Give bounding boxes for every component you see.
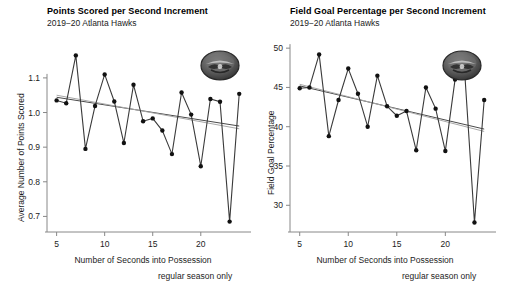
data-point — [131, 83, 135, 87]
y-tick-label: 50 — [274, 43, 284, 53]
data-point — [151, 116, 155, 120]
data-point — [83, 147, 87, 151]
data-point — [424, 85, 428, 89]
data-point — [365, 125, 369, 129]
data-point — [346, 66, 350, 70]
x-tick-label: 10 — [100, 239, 110, 249]
points-x-axis-label: Number of Seconds into Possession — [38, 255, 248, 265]
x-tick-label: 5 — [54, 239, 59, 249]
data-point — [112, 99, 116, 103]
x-tick-label: 10 — [344, 239, 354, 249]
data-point — [414, 148, 418, 152]
x-tick-label: 15 — [148, 239, 158, 249]
fg-x-axis-label: Number of Seconds into Possession — [280, 255, 490, 265]
data-point — [472, 220, 476, 224]
data-point — [141, 119, 145, 123]
data-point — [227, 219, 231, 223]
data-point — [122, 141, 126, 145]
x-tick-label: 5 — [297, 239, 302, 249]
data-point — [298, 86, 302, 90]
data-point — [482, 98, 486, 102]
atlanta-hawks-logo — [200, 50, 240, 85]
data-point — [395, 114, 399, 118]
data-point — [443, 149, 447, 153]
data-point — [317, 52, 321, 56]
x-tick-label: 20 — [196, 239, 206, 249]
y-tick-label: 0.7 — [28, 211, 40, 221]
data-point — [170, 152, 174, 156]
points-scored-panel: Points Scored per Second Increment 2019−… — [0, 0, 252, 296]
fg-chart-plot: 30354045505101520 — [252, 0, 505, 296]
atlanta-hawks-logo — [442, 50, 482, 85]
x-tick-label: 20 — [441, 239, 451, 249]
y-tick-label: 0.8 — [28, 177, 40, 187]
y-tick-label: 1.1 — [28, 73, 40, 83]
y-tick-label: 30 — [274, 200, 284, 210]
data-point — [64, 101, 68, 105]
y-tick-label: 1.0 — [28, 108, 40, 118]
points-chart-plot: 0.70.80.91.01.15101520 — [0, 0, 252, 296]
data-point — [74, 53, 78, 57]
data-point — [160, 128, 164, 132]
fg-chart-caption: regular season only — [402, 271, 476, 281]
data-point — [433, 106, 437, 110]
data-point — [208, 97, 212, 101]
data-point — [237, 92, 241, 96]
data-point — [336, 98, 340, 102]
x-tick-label: 15 — [392, 239, 402, 249]
data-point — [404, 109, 408, 113]
field-goal-panel: Field Goal Percentage per Second Increme… — [252, 0, 505, 296]
data-point — [356, 92, 360, 96]
fg-y-axis-label: Field Goal Percentage — [266, 110, 276, 195]
data-point — [179, 90, 183, 94]
points-chart-caption: regular season only — [158, 271, 232, 281]
data-point — [327, 134, 331, 138]
data-point — [375, 73, 379, 77]
y-tick-label: 0.9 — [28, 142, 40, 152]
charts-board: Points Scored per Second Increment 2019−… — [0, 0, 505, 296]
y-tick-label: 45 — [274, 82, 284, 92]
data-point — [93, 104, 97, 108]
data-point — [199, 164, 203, 168]
points-y-axis-label: Average Number of Points Scored — [16, 93, 26, 222]
data-point — [54, 98, 58, 102]
data-point — [102, 72, 106, 76]
data-point — [307, 85, 311, 89]
data-point — [189, 112, 193, 116]
data-point — [218, 100, 222, 104]
data-point — [385, 104, 389, 108]
